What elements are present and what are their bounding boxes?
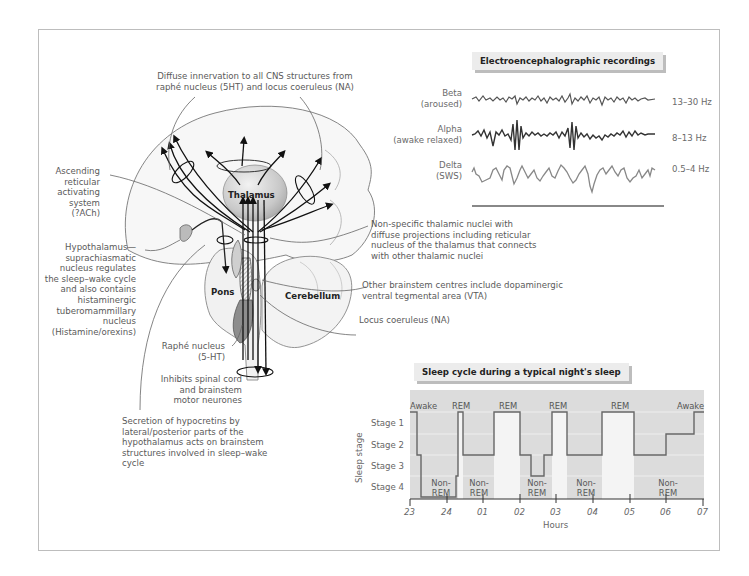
- phase-label-rem-4: REM: [611, 401, 629, 411]
- hour-tick-06: 06: [660, 507, 671, 517]
- hour-tick-02: 02: [514, 507, 525, 517]
- hour-tick-04: 04: [587, 507, 598, 517]
- non-rem-label-1: Non- REM: [428, 478, 454, 498]
- hour-tick-23: 23: [404, 507, 415, 517]
- hour-tick-01: 01: [477, 507, 488, 517]
- phase-label-awake-end: Awake: [677, 401, 704, 411]
- x-axis-label: Hours: [543, 520, 568, 531]
- y-axis-label: Sleep stage: [354, 433, 364, 483]
- stage-label-1: Stage 1: [350, 418, 404, 428]
- phase-label-rem-3: REM: [549, 401, 567, 411]
- hour-tick-03: 03: [550, 507, 561, 517]
- non-rem-label-4: Non- REM: [573, 478, 599, 498]
- phase-label-rem-2: REM: [499, 401, 517, 411]
- non-rem-label-3: Non- REM: [524, 478, 550, 498]
- stage-label-4: Stage 4: [350, 482, 404, 492]
- phase-label-awake-start: Awake: [410, 401, 437, 411]
- non-rem-label-2: Non- REM: [466, 478, 492, 498]
- hour-tick-07: 07: [697, 507, 708, 517]
- phase-label-rem-1: REM: [452, 401, 470, 411]
- non-rem-label-5: Non- REM: [655, 478, 681, 498]
- hour-tick-05: 05: [624, 507, 635, 517]
- hour-tick-24: 24: [441, 507, 452, 517]
